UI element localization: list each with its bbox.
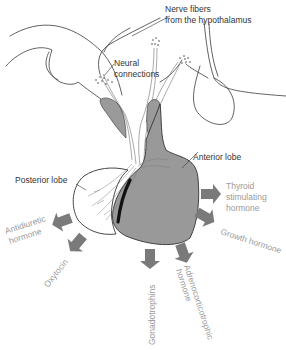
label-gonadotrophins: Gonadotrophins (147, 285, 157, 346)
label-neural-1: Neural (114, 58, 139, 68)
arrow-gonadotrophins (140, 249, 160, 269)
label-posterior-lobe: Posterior lobe (15, 175, 68, 185)
label-nerve-fibers-1: Nerve fibers (165, 4, 211, 14)
arrow-adh (49, 209, 75, 235)
hypothalamic-nerve-fibers (98, 18, 180, 165)
label-anterior-lobe: Anterior lobe (193, 152, 241, 162)
label-neural-2: connections (114, 69, 159, 79)
pituitary-diagram: Nerve fibers from the hypothalamus Neura… (0, 0, 286, 350)
arrow-tsh (201, 184, 221, 204)
arrow-oxytocin (62, 230, 90, 258)
label-oxytocin: Oxytocin (42, 257, 70, 289)
label-acth-1: Adrenocorticotrophic (182, 264, 216, 342)
label-tsh-2: stimulating (226, 192, 267, 202)
label-tsh-3: hormone (226, 203, 260, 213)
label-tsh-1: Thyroid (226, 181, 255, 191)
label-gh: Growth hormone (219, 226, 283, 255)
label-nerve-fibers-2: from the hypothalamus (165, 15, 251, 25)
